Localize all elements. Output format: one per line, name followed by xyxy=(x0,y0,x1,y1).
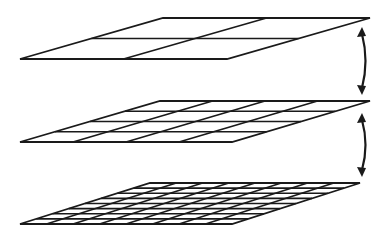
arrowhead-down-icon xyxy=(357,85,366,95)
grid-plane-medium xyxy=(20,101,370,142)
arrow-medium-fine-icon xyxy=(357,113,366,177)
grid-levels xyxy=(20,18,370,224)
arrow-coarse-medium-icon xyxy=(357,27,366,95)
arrowhead-down-icon xyxy=(357,167,366,177)
arrowhead-up-icon xyxy=(357,27,366,37)
grid-plane-coarse xyxy=(20,18,370,59)
arrowhead-up-icon xyxy=(357,113,366,123)
multigrid-diagram xyxy=(0,0,391,236)
grid-plane-fine xyxy=(20,183,360,224)
